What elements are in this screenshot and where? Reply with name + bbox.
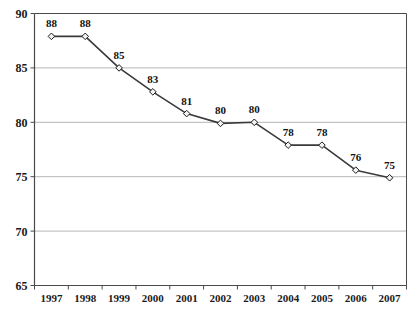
data-label-1998: 88 bbox=[80, 17, 92, 29]
x-tick-label-2002: 2002 bbox=[210, 292, 233, 304]
data-label-1999: 85 bbox=[114, 49, 126, 61]
x-tick-label-2007: 2007 bbox=[379, 292, 402, 304]
line-chart: 6570758085901997199819992000200120022003… bbox=[0, 0, 415, 310]
data-label-2003: 80 bbox=[249, 103, 261, 115]
x-tick-label-2004: 2004 bbox=[277, 292, 300, 304]
x-tick-label-2000: 2000 bbox=[142, 292, 165, 304]
data-label-2004: 78 bbox=[283, 126, 295, 138]
data-label-1997: 88 bbox=[46, 17, 58, 29]
y-tick-label-65: 65 bbox=[16, 279, 28, 293]
x-tick-label-2005: 2005 bbox=[311, 292, 334, 304]
x-tick-label-2006: 2006 bbox=[345, 292, 368, 304]
data-label-2007: 75 bbox=[384, 159, 396, 171]
x-tick-label-1998: 1998 bbox=[74, 292, 97, 304]
x-tick-label-1999: 1999 bbox=[108, 292, 131, 304]
y-tick-label-70: 70 bbox=[16, 225, 28, 239]
data-label-2002: 80 bbox=[215, 104, 227, 116]
y-tick-label-75: 75 bbox=[16, 170, 28, 184]
y-tick-label-90: 90 bbox=[16, 7, 28, 21]
plot-background bbox=[35, 14, 407, 286]
x-tick-label-2003: 2003 bbox=[243, 292, 266, 304]
x-tick-label-1997: 1997 bbox=[40, 292, 63, 304]
data-label-2006: 76 bbox=[350, 151, 362, 163]
chart-canvas: 6570758085901997199819992000200120022003… bbox=[0, 0, 415, 310]
data-label-2005: 78 bbox=[316, 126, 328, 138]
y-tick-label-85: 85 bbox=[16, 61, 28, 75]
y-tick-label-80: 80 bbox=[16, 116, 28, 130]
data-label-2000: 83 bbox=[147, 73, 159, 85]
x-tick-label-2001: 2001 bbox=[176, 292, 198, 304]
data-label-2001: 81 bbox=[181, 95, 192, 107]
